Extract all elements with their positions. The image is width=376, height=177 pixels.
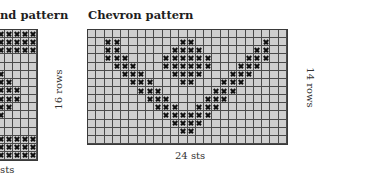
- stitch-cell-marked: [196, 46, 204, 54]
- left-pattern-title: nd pattern: [0, 8, 68, 22]
- stitch-cell: [279, 54, 287, 62]
- stitch-cell: [279, 128, 287, 136]
- stitch-cell: [246, 46, 254, 54]
- chevron-pattern-title: Chevron pattern: [88, 8, 193, 22]
- stitch-cell: [88, 111, 96, 119]
- stitch-cell: [113, 120, 121, 128]
- stitch-cell: [237, 54, 245, 62]
- stitch-cell: [88, 54, 96, 62]
- stitch-cell-marked: [105, 54, 113, 62]
- stitch-cell: [105, 128, 113, 136]
- stitch-cell: [270, 30, 278, 38]
- stitch-cell: [229, 103, 237, 111]
- stitch-cell: [154, 128, 162, 136]
- stitch-cell: [279, 103, 287, 111]
- stitch-cell: [262, 79, 270, 87]
- stitch-cell-marked: [179, 111, 187, 119]
- stitch-cell-marked: [5, 152, 13, 160]
- stitch-cell: [246, 103, 254, 111]
- stitch-cell: [5, 119, 13, 127]
- stitch-cell-marked: [163, 54, 171, 62]
- stitch-cell: [171, 79, 179, 87]
- stitch-cell-marked: [171, 103, 179, 111]
- stitch-cell: [246, 79, 254, 87]
- stitch-cell-marked: [21, 152, 29, 160]
- chevron-pattern-chart: [87, 29, 288, 145]
- stitch-cell-marked: [13, 144, 21, 152]
- stitch-cell-marked: [21, 38, 29, 46]
- stitch-cell: [96, 54, 104, 62]
- stitch-cell-marked: [196, 111, 204, 119]
- stitch-cell: [121, 128, 129, 136]
- stitch-cell: [121, 30, 129, 38]
- stitch-cell: [13, 79, 21, 87]
- stitch-cell: [146, 111, 154, 119]
- stitch-cell: [146, 63, 154, 71]
- stitch-cell: [188, 95, 196, 103]
- stitch-cell: [121, 79, 129, 87]
- stitch-cell: [88, 71, 96, 79]
- stitch-cell: [262, 30, 270, 38]
- stitch-cell: [21, 103, 29, 111]
- stitch-cell: [270, 71, 278, 79]
- stitch-cell: [163, 120, 171, 128]
- stitch-cell: [113, 95, 121, 103]
- stitch-cell: [96, 87, 104, 95]
- stitch-cell: [229, 136, 237, 144]
- stitch-cell: [129, 38, 137, 46]
- stitch-cell: [254, 120, 262, 128]
- stitch-cell: [254, 95, 262, 103]
- stitch-cell: [96, 128, 104, 136]
- stitch-cell: [29, 71, 37, 79]
- stitch-cell-marked: [262, 38, 270, 46]
- stitch-cell-marked: [21, 144, 29, 152]
- stitch-cell-marked: [146, 79, 154, 87]
- stitch-cell: [262, 63, 270, 71]
- stitch-cell: [29, 79, 37, 87]
- stitch-cell-marked: [129, 63, 137, 71]
- stitch-cell-marked: [188, 38, 196, 46]
- stitch-cell-marked: [179, 120, 187, 128]
- stitch-cell: [96, 71, 104, 79]
- stitch-cell: [13, 71, 21, 79]
- stitch-cell: [270, 87, 278, 95]
- stitch-cell-marked: [105, 46, 113, 54]
- stitch-cell-marked: [5, 46, 13, 54]
- stitch-cell: [129, 136, 137, 144]
- stitch-cell: [262, 120, 270, 128]
- stitch-cell: [105, 111, 113, 119]
- stitch-cell: [96, 30, 104, 38]
- stitch-cell-marked: [221, 87, 229, 95]
- stitch-cell-marked: [188, 120, 196, 128]
- stitch-cell: [163, 71, 171, 79]
- stitch-cell: [212, 111, 220, 119]
- stitch-cell-marked: [196, 71, 204, 79]
- stitch-cell: [105, 79, 113, 87]
- stitch-cell: [21, 79, 29, 87]
- stitch-cell-marked: [138, 87, 146, 95]
- stitch-cell: [21, 54, 29, 62]
- stitch-cell: [146, 38, 154, 46]
- stitch-cell: [212, 128, 220, 136]
- stitch-cell: [5, 111, 13, 119]
- stitch-cell: [154, 79, 162, 87]
- stitch-cell: [163, 46, 171, 54]
- stitch-cell-marked: [188, 79, 196, 87]
- stitch-cell-marked: [179, 79, 187, 87]
- stitch-cell: [246, 120, 254, 128]
- stitch-cell: [138, 136, 146, 144]
- stitch-cell: [270, 54, 278, 62]
- stitch-cell: [105, 63, 113, 71]
- stitch-cell-marked: [154, 87, 162, 95]
- stitch-cell: [270, 95, 278, 103]
- stitch-cell: [262, 87, 270, 95]
- stitch-cell-marked: [212, 87, 220, 95]
- stitch-cell: [237, 120, 245, 128]
- stitch-cell: [279, 120, 287, 128]
- stitch-cell-marked: [204, 63, 212, 71]
- stitch-cell: [129, 95, 137, 103]
- stitch-cell: [154, 30, 162, 38]
- stitch-cell-marked: [5, 103, 13, 111]
- stitch-cell: [237, 87, 245, 95]
- stitch-cell: [154, 120, 162, 128]
